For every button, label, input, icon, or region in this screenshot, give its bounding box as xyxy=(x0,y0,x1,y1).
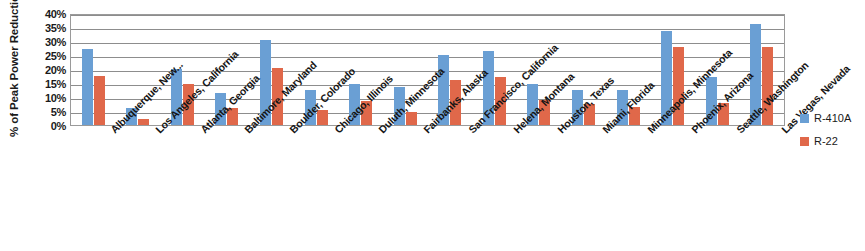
x-axis-category-label: Boulder, Colorado xyxy=(287,127,295,135)
legend-color-swatch xyxy=(800,114,809,123)
legend-item-label: R-410A xyxy=(814,112,851,124)
bar-r-410a xyxy=(82,49,93,125)
x-axis-category-label: Houston, Texas xyxy=(555,127,563,135)
x-axis-category-label: Minneapolis, Minnesota xyxy=(645,127,653,135)
y-axis-tick-label: 40% xyxy=(24,9,66,19)
bar-r-22 xyxy=(406,112,417,125)
x-axis-category-label: Helena, Montana xyxy=(511,127,519,135)
x-axis-category-label: San Francisco, California xyxy=(466,127,474,135)
legend-item[interactable]: R-22 xyxy=(800,135,865,147)
x-axis-category-label: Atlanta, Georgia xyxy=(198,127,206,135)
legend-color-swatch xyxy=(800,137,809,146)
bar-chart: % of Peak Power Reduction 40%35%30%25%20… xyxy=(0,0,865,251)
x-axis-category-labels: Albuquerque, New...Los Angeles, Californ… xyxy=(70,127,785,251)
x-axis-category-label: Los Angeles, California xyxy=(153,127,161,135)
y-axis-tick-label: 5% xyxy=(24,107,66,117)
y-axis-tick-label: 0% xyxy=(24,121,66,131)
legend-item-label: R-22 xyxy=(814,135,838,147)
x-axis-category-label: Baltimore, Maryland xyxy=(242,127,250,135)
bar-r-22 xyxy=(94,76,105,125)
x-axis-category-label: Las Vegas, Nevada xyxy=(779,127,787,135)
x-axis-category-label: Miami, Florida xyxy=(600,127,608,135)
chart-legend: R-410AR-22 xyxy=(800,112,865,158)
y-axis-tick-label: 30% xyxy=(24,37,66,47)
x-axis-category-label: Duluth, Minnesota xyxy=(376,127,384,135)
bar-r-22 xyxy=(138,119,149,125)
y-axis-tick-labels: 40%35%30%25%20%15%10%5%0% xyxy=(24,14,66,126)
y-axis-tick-label: 10% xyxy=(24,93,66,103)
x-axis-category-label: Fairbanks, Alaska xyxy=(421,127,429,135)
y-axis-tick-label: 35% xyxy=(24,23,66,33)
bar-group xyxy=(71,15,116,125)
x-axis-category-label: Chicago, Illinois xyxy=(332,127,340,135)
x-axis-category-label: Phoenix, Arizona xyxy=(689,127,697,135)
y-axis-tick-label: 15% xyxy=(24,79,66,89)
x-axis-category-label: Albuquerque, New... xyxy=(108,127,116,135)
legend-item[interactable]: R-410A xyxy=(800,112,865,124)
x-axis-category-label: Seattle, Washington xyxy=(734,127,742,135)
y-axis-tick-label: 20% xyxy=(24,65,66,75)
y-axis-tick-label: 25% xyxy=(24,51,66,61)
